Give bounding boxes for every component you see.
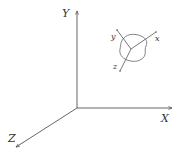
local-body-frame: y x z: [110, 29, 160, 72]
local-z-label: z: [112, 62, 118, 71]
global-axes: Y X Z: [7, 7, 172, 147]
global-z-axis: [16, 108, 77, 147]
local-y-axis: [117, 30, 131, 49]
local-z-axis: [120, 49, 131, 71]
coordinate-diagram: Y X Z y x z: [0, 0, 178, 156]
global-x-label: X: [160, 112, 170, 125]
local-x-label: x: [155, 34, 160, 43]
global-y-label: Y: [62, 7, 71, 20]
global-z-label: Z: [7, 132, 16, 145]
local-y-label: y: [110, 32, 116, 41]
